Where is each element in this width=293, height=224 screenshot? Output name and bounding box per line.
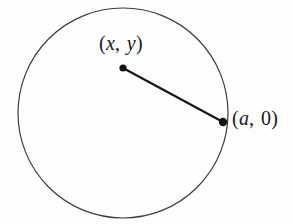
radius-segment [123,68,223,122]
variable-x: x [106,32,115,54]
point-label-xy: (x, y) [99,33,143,53]
comma-separator: , [115,32,122,54]
comma-separator: , [249,107,256,129]
variable-a: a [239,107,249,129]
paren-close: ) [271,107,278,129]
point-marker-a0 [219,118,227,126]
point-marker-xy [119,64,126,71]
point-label-a0: (a, 0) [232,108,278,128]
paren-open: ( [232,107,239,129]
paren-close: ) [136,32,143,54]
variable-y: y [127,32,136,54]
number-zero: 0 [261,107,271,129]
paren-open: ( [99,32,106,54]
figure-canvas: (x, y) (a, 0) [0,0,293,224]
